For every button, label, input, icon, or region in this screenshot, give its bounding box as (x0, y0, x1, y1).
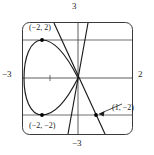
graph-figure: 3 −3 2 −3 (−2, 2) (−2, −2) (1, −2) (0, 0, 154, 155)
loop-curve (24, 40, 78, 115)
axis-label-right: 2 (138, 70, 143, 79)
annotation-arrowhead-icon (99, 111, 105, 116)
plot-canvas (0, 0, 154, 155)
point-label-upper-left: (−2, 2) (29, 24, 51, 32)
marker-point-lower-left (40, 113, 44, 117)
axis-label-left: −3 (2, 70, 12, 79)
marker-point-lower-right (94, 113, 98, 117)
point-label-lower-left: (−2, −2) (29, 122, 55, 130)
axis-label-bottom: −3 (72, 139, 82, 148)
point-label-lower-right: (1, −2) (112, 104, 134, 112)
marker-point-upper-left (40, 38, 44, 42)
axis-label-top: 3 (72, 2, 77, 11)
